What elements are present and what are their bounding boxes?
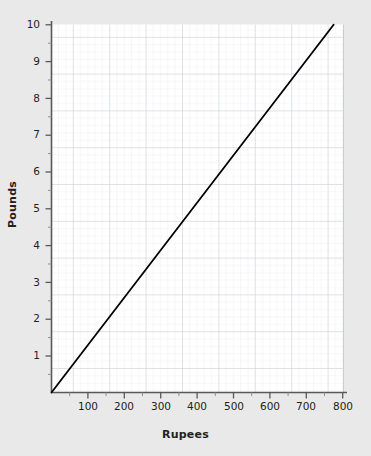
y-tick-label-1: 1 <box>10 349 40 361</box>
x-tick-label-400: 400 <box>177 400 217 412</box>
x-tick-label-600: 600 <box>250 400 290 412</box>
y-tick-label-10: 10 <box>10 18 40 30</box>
y-axis-title: Pounds <box>6 165 19 245</box>
y-tick-label-8: 8 <box>10 92 40 104</box>
x-tick-label-700: 700 <box>286 400 326 412</box>
chart-plot-area <box>0 0 371 456</box>
y-tick-label-9: 9 <box>10 55 40 67</box>
x-tick-label-300: 300 <box>141 400 181 412</box>
chart-container: 10 9 8 7 6 5 4 3 2 1 100 200 300 400 500… <box>0 0 371 456</box>
y-tick-label-7: 7 <box>10 128 40 140</box>
x-tick-label-800: 800 <box>323 400 363 412</box>
x-axis-title: Rupees <box>0 428 371 441</box>
y-tick-label-3: 3 <box>10 276 40 288</box>
y-tick-label-2: 2 <box>10 312 40 324</box>
x-tick-label-500: 500 <box>214 400 254 412</box>
x-tick-label-100: 100 <box>68 400 108 412</box>
grid-lines <box>52 25 344 393</box>
x-tick-label-200: 200 <box>104 400 144 412</box>
